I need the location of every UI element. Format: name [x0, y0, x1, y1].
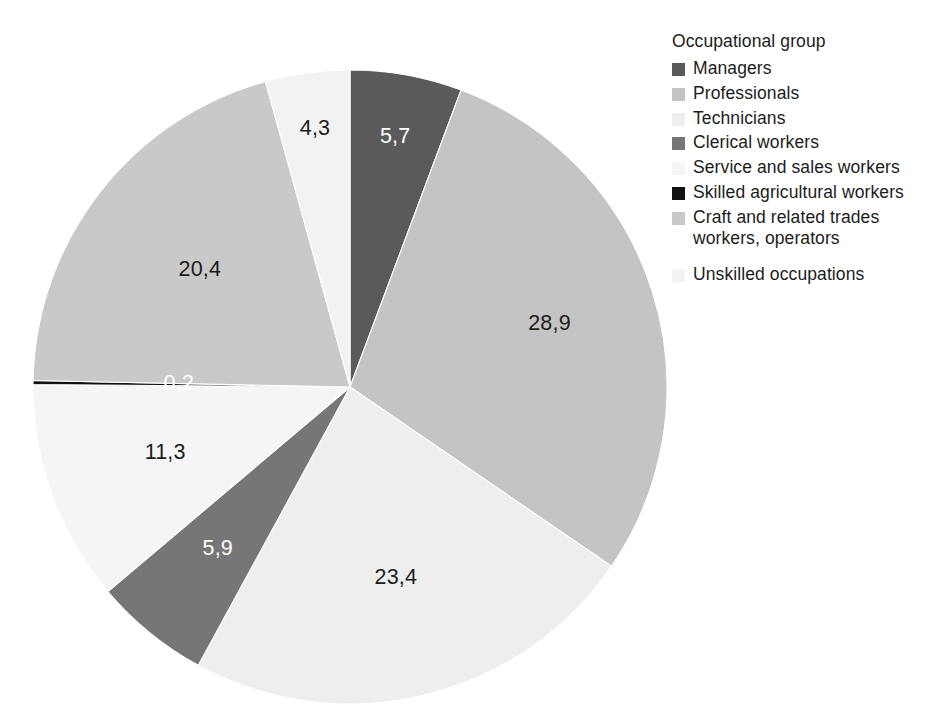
legend-item-label: Technicians: [693, 108, 786, 130]
pie-slice-value-label: 4,3: [300, 116, 331, 140]
legend-item[interactable]: Craft and related trades workers, operat…: [672, 207, 924, 250]
legend-item-label: Skilled agricultural workers: [693, 182, 904, 204]
legend-swatch-icon: [672, 212, 685, 225]
legend-item[interactable]: Unskilled occupations: [672, 264, 924, 286]
legend: Occupational group ManagersProfessionals…: [672, 30, 924, 289]
pie-slice-value-label: 5,7: [380, 124, 411, 148]
legend-item[interactable]: Managers: [672, 58, 924, 80]
legend-swatch-icon: [672, 113, 685, 126]
legend-item-label: Managers: [693, 58, 772, 80]
legend-item-label: Craft and related trades workers, operat…: [693, 207, 924, 250]
legend-swatch-icon: [672, 269, 685, 282]
legend-item-label: Service and sales workers: [693, 157, 900, 179]
pie-slice-value-label: 5,9: [203, 536, 234, 560]
legend-title: Occupational group: [672, 30, 924, 52]
legend-item[interactable]: Service and sales workers: [672, 157, 924, 179]
legend-item-label: Clerical workers: [693, 132, 819, 154]
legend-swatch-icon: [672, 63, 685, 76]
legend-item[interactable]: Skilled agricultural workers: [672, 182, 924, 204]
pie-slice-value-label: 0,2: [164, 371, 195, 395]
legend-item-label: Professionals: [693, 83, 799, 105]
legend-item[interactable]: Clerical workers: [672, 132, 924, 154]
legend-item[interactable]: Technicians: [672, 108, 924, 130]
pie-slice-value-label: 23,4: [375, 565, 418, 589]
pie-chart-svg: 5,728,923,45,911,30,220,44,3: [0, 0, 680, 719]
legend-item-label: Unskilled occupations: [693, 264, 864, 286]
pie-slice-group: [33, 70, 667, 704]
legend-swatch-icon: [672, 162, 685, 175]
pie-slice-value-label: 11,3: [145, 440, 186, 464]
legend-list: ManagersProfessionalsTechniciansClerical…: [672, 58, 924, 285]
pie-slice-value-label: 20,4: [178, 257, 221, 281]
legend-swatch-icon: [672, 187, 685, 200]
legend-swatch-icon: [672, 137, 685, 150]
legend-item[interactable]: Professionals: [672, 83, 924, 105]
legend-swatch-icon: [672, 88, 685, 101]
pie-chart-area: 5,728,923,45,911,30,220,44,3: [0, 0, 680, 719]
pie-slice-value-label: 28,9: [528, 311, 571, 335]
